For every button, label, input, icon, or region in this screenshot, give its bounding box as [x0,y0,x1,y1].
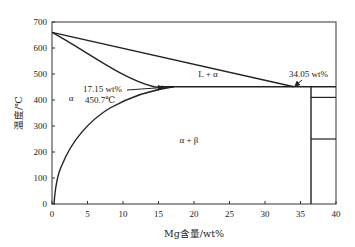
liquidus-line [52,32,294,86]
y-tick-labels: 0 100 200 300 400 500 600 700 [34,17,48,209]
x-tick-labels: 0 5 10 15 20 25 30 35 40 [50,209,341,219]
region-label-l-alpha: L + α [198,69,218,79]
x-tick-label: 10 [119,209,129,219]
y-tick-label: 200 [34,147,48,157]
annotation-34-05-wt: 34.05 wt% [289,69,329,79]
y-tick-label: 700 [34,17,48,27]
phase-diagram: 0 100 200 300 400 500 600 700 0 5 10 15 … [0,0,355,247]
y-axis-label: 温度/℃ [13,96,24,130]
region-label-alpha: α [69,93,74,103]
x-tick-label: 40 [332,209,342,219]
y-tick-label: 100 [34,173,48,183]
x-tick-label: 15 [154,209,164,219]
x-tick-label: 35 [296,209,306,219]
y-tick-label: 300 [34,121,48,131]
arrow-icon [295,80,302,86]
phase-boundaries [52,32,336,204]
annotation-17-15-wt: 17.15 wt% [83,84,123,94]
plot-frame [52,22,336,204]
y-tick-label: 500 [34,69,48,79]
region-label-alpha-beta: α + β [180,135,199,145]
y-tick-label: 0 [43,199,48,209]
x-tick-label: 30 [261,209,271,219]
x-tick-label: 25 [225,209,235,219]
annotation-450-7-c: 450.7℃ [85,95,115,105]
y-tick-label: 400 [34,95,48,105]
x-tick-label: 5 [85,209,90,219]
solidus-curve [52,32,174,87]
x-axis-label: Mg含量/wt% [164,228,224,239]
x-tick-label: 0 [50,209,55,219]
y-tick-label: 600 [34,43,48,53]
x-tick-label: 20 [190,209,200,219]
